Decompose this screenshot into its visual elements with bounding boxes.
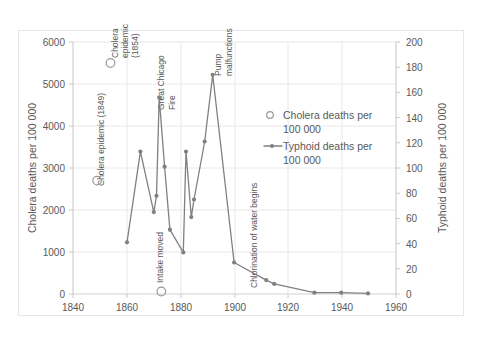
annotation-cholera-epidemic-1854-line2: epidemic	[120, 23, 130, 58]
annotation-pump-malfunctions-line1: Pump	[213, 54, 223, 76]
right-tick-label-100: 100	[406, 163, 423, 174]
x-tick-labels: 1840 1860 1880 1900 1920 1940 1960	[62, 302, 408, 313]
left-tick-label-0: 0	[59, 289, 65, 300]
data-point	[157, 95, 161, 99]
right-tick-label-20: 20	[406, 264, 418, 275]
left-tick-label-1000: 1000	[43, 247, 66, 258]
data-point	[154, 194, 158, 198]
left-tick-label-5000: 5000	[43, 79, 66, 90]
x-tick-label-1840: 1840	[62, 302, 85, 313]
left-tick-label-6000: 6000	[43, 37, 66, 48]
annotation-cholera-epidemic-1854-line3: (1854)	[130, 33, 140, 58]
x-axis-ticks	[73, 294, 396, 298]
legend-marker-cholera-icon	[267, 112, 274, 119]
right-tick-label-160: 160	[406, 87, 423, 98]
data-point	[339, 291, 343, 295]
left-tick-label-4000: 4000	[43, 121, 66, 132]
right-tick-label-140: 140	[406, 113, 423, 124]
left-tick-label-2000: 2000	[43, 205, 66, 216]
x-tick-label-1860: 1860	[116, 302, 139, 313]
left-axis-title: Cholera deaths per 100 000	[26, 103, 38, 233]
data-point-cholera-1854	[106, 59, 115, 68]
data-point	[272, 282, 276, 286]
legend-label-cholera-line1: Cholera deaths per	[283, 109, 373, 121]
legend-label-typhoid-line1: Typhoid deaths per	[283, 140, 373, 152]
chart-container: 6000 5000 4000 3000 2000 1000 0 200 180 …	[0, 0, 483, 345]
data-point	[203, 139, 207, 143]
gridlines	[73, 42, 396, 294]
right-tick-label-200: 200	[406, 37, 423, 48]
annotation-great-chicago-fire-line2: Fire	[167, 95, 177, 110]
data-point	[125, 240, 129, 244]
chart-legend: Cholera deaths per 100 000 Typhoid death…	[264, 109, 373, 166]
left-axis-ticks	[69, 42, 73, 294]
data-point	[152, 210, 156, 214]
data-point	[168, 228, 172, 232]
data-point	[163, 165, 167, 169]
data-point	[211, 73, 215, 77]
right-tick-label-60: 60	[406, 213, 418, 224]
data-point	[366, 291, 370, 295]
data-point	[184, 150, 188, 154]
right-tick-label-40: 40	[406, 239, 418, 250]
annotation-intake-moved: Intake moved	[155, 232, 165, 283]
legend-marker-typhoid-dot-icon	[270, 144, 274, 148]
data-point	[232, 260, 236, 264]
annotation-pump-malfunctions-line2: malfunctions	[224, 28, 234, 76]
data-point-cholera-1873	[157, 287, 166, 296]
data-point	[181, 250, 185, 254]
right-tick-label-180: 180	[406, 62, 423, 73]
legend-label-typhoid-line2: 100 000	[283, 154, 321, 166]
left-tick-label-3000: 3000	[43, 163, 66, 174]
x-tick-label-1960: 1960	[385, 302, 408, 313]
x-tick-label-1940: 1940	[331, 302, 354, 313]
annotation-cholera-epidemic-1854-line1: Cholera	[110, 28, 120, 58]
right-tick-label-80: 80	[406, 188, 418, 199]
right-tick-labels: 200 180 160 140 120 100 80 60 40 20 0	[406, 37, 423, 300]
left-tick-labels: 6000 5000 4000 3000 2000 1000 0	[43, 37, 66, 300]
annotation-cholera-epidemic-1849: Cholera epidemic (1849)	[96, 93, 106, 186]
x-tick-label-1900: 1900	[224, 302, 247, 313]
data-point	[138, 150, 142, 154]
x-tick-label-1880: 1880	[170, 302, 193, 313]
legend-label-cholera-line2: 100 000	[283, 123, 321, 135]
chart-plot: 6000 5000 4000 3000 2000 1000 0 200 180 …	[0, 0, 483, 345]
data-point	[189, 215, 193, 219]
right-axis-ticks	[396, 42, 400, 294]
right-axis-title: Typhoid deaths per 100 000	[436, 103, 448, 233]
right-tick-label-0: 0	[406, 289, 412, 300]
annotation-great-chicago-fire-line1: Great Chicago	[156, 55, 166, 110]
data-point	[312, 291, 316, 295]
x-tick-label-1920: 1920	[277, 302, 300, 313]
right-tick-label-120: 120	[406, 138, 423, 149]
data-point	[264, 278, 268, 282]
data-point	[192, 197, 196, 201]
